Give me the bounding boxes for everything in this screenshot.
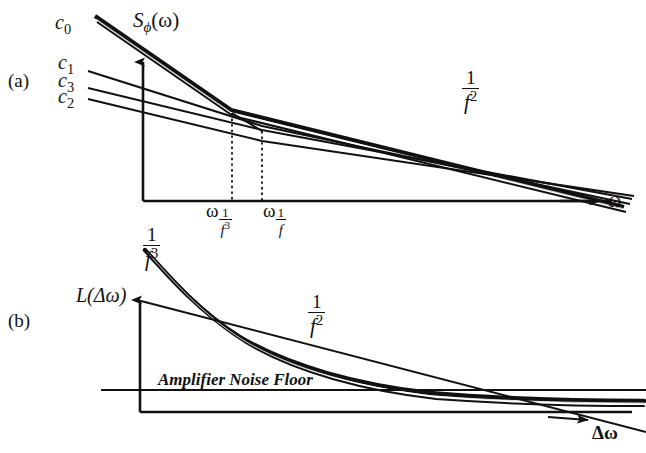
b-f3-num: 1	[143, 225, 160, 245]
tick-1-fraction: 1f3	[219, 206, 232, 238]
curve-label-c2: c2	[58, 86, 74, 110]
panel-a-y-axis-label: Sϕ(ω)	[133, 10, 179, 35]
curve-label-c0: c0	[55, 12, 71, 36]
fraction-1-over-f3: 1 f3	[143, 225, 160, 270]
tick-2-den: f	[276, 219, 287, 238]
b-f3-den: f3	[143, 245, 160, 270]
c2-symbol: c	[58, 85, 67, 107]
panel-b-graph	[101, 250, 646, 432]
panel-b-x-axis-label: Δω	[592, 423, 618, 442]
panel-a-tick-label-2: ω1f	[263, 201, 286, 238]
b-f3-den-power: 3	[151, 245, 159, 261]
fraction-b-1-over-f2: 1 f2	[308, 292, 325, 337]
fraction-1-over-f2: 1 f2	[462, 68, 479, 113]
l-delta-omega-symbol: L(Δω)	[76, 284, 126, 306]
figure-root: (a) (b) Sϕ(ω) c0 c1 c3 c2 1 f2 ω ω1f3 ω1…	[0, 0, 646, 453]
b-f2-den: f2	[308, 312, 325, 337]
figure-canvas	[0, 0, 646, 453]
s-symbol: S	[133, 8, 144, 32]
tick-2-den-symbol: f	[279, 222, 283, 238]
panel-b-region-label-1-over-f3: 1 f3	[143, 225, 160, 270]
tick-1-omega: ω	[206, 200, 219, 221]
tick-2-subscript: 1f	[276, 206, 287, 238]
panel-b-letter: (b)	[8, 310, 30, 332]
s-argument: (ω)	[151, 8, 179, 32]
tick-1-den: f3	[219, 219, 232, 238]
panel-a-slope-label-1-over-f2: 1 f2	[462, 68, 479, 113]
b-f2-num: 1	[308, 292, 325, 312]
tick-2-num: 1	[276, 206, 287, 220]
tick-1-subscript: 1f3	[219, 206, 232, 238]
c0-subscript: 0	[64, 21, 71, 37]
panel-a-graph	[88, 16, 634, 212]
panel-b-y-axis-label: L(Δω)	[76, 285, 126, 305]
panel-a-tick-label-1: ω1f3	[206, 201, 232, 238]
panel-a-x-axis-label: ω	[608, 190, 621, 210]
panel-a-letter: (a)	[8, 70, 29, 92]
tick-2-fraction: 1f	[276, 206, 287, 238]
tick-1-num: 1	[219, 206, 232, 220]
tick-1-den-power: 3	[225, 219, 230, 231]
panel-b-region-label-1-over-f2: 1 f2	[308, 292, 325, 337]
c2-subscript: 2	[67, 95, 74, 111]
panel-b-noise-floor-label: Amplifier Noise Floor	[158, 370, 313, 390]
denominator-power: 2	[470, 88, 478, 104]
tick-2-omega: ω	[263, 200, 276, 221]
b-f2-den-power: 2	[316, 312, 324, 328]
c0-symbol: c	[55, 11, 64, 33]
fraction-denominator: f2	[462, 88, 479, 113]
panel-b-x-axis-arrow	[548, 417, 588, 420]
fraction-numerator: 1	[462, 68, 479, 88]
